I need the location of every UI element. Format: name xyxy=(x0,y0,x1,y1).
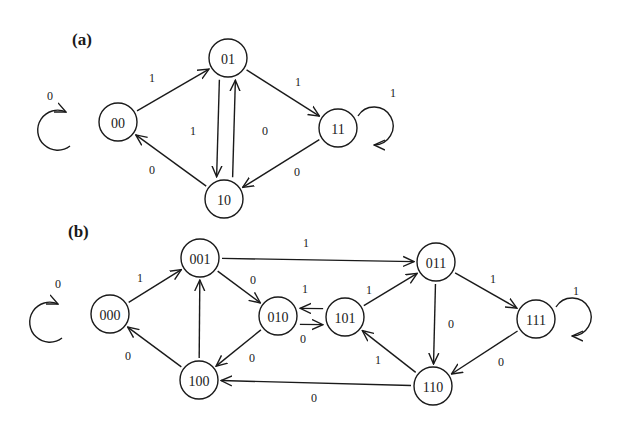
edge-label: 1 xyxy=(137,271,143,285)
self-loop-edge xyxy=(38,110,70,150)
edge-label: 1 xyxy=(390,86,396,100)
node-label: 101 xyxy=(335,311,356,326)
state-node-100: 100 xyxy=(180,361,218,399)
edge-100-001 xyxy=(199,280,200,358)
state-node-01: 01 xyxy=(209,39,247,77)
edge-110-100 xyxy=(221,381,411,386)
edge-10-00 xyxy=(136,135,206,186)
self-loop-edge xyxy=(556,298,591,336)
edge-label: 0 xyxy=(125,349,131,363)
state-node-010: 010 xyxy=(259,297,297,335)
edge-label: 1 xyxy=(573,284,579,298)
node-label: 00 xyxy=(111,116,125,131)
edge-11-10 xyxy=(243,140,320,188)
state-node-001: 001 xyxy=(181,239,219,277)
panel-a-graph: (a)1101000100011110 xyxy=(38,30,396,218)
self-loop-edge xyxy=(30,302,62,342)
edge-label: 0 xyxy=(249,351,255,365)
edge-00-01 xyxy=(137,69,209,111)
edge-110-101 xyxy=(362,331,415,373)
edge-01-11 xyxy=(247,70,320,116)
panel-label: (a) xyxy=(72,30,92,49)
node-label: 11 xyxy=(331,122,344,137)
state-node-111: 111 xyxy=(517,300,555,338)
state-node-011: 011 xyxy=(417,243,455,281)
edge-label: 0 xyxy=(311,391,317,405)
state-node-11: 11 xyxy=(319,109,357,147)
edge-10-01 xyxy=(233,80,236,177)
state-node-10: 10 xyxy=(205,180,243,218)
edge-label: 0 xyxy=(262,124,268,138)
edge-label: 1 xyxy=(490,272,496,286)
edge-label: 1 xyxy=(149,71,155,85)
state-node-000: 000 xyxy=(91,295,129,333)
edge-100-000 xyxy=(128,327,182,367)
panel-b-graph: (b)1101010101000010000010101010111111101… xyxy=(30,222,591,405)
edge-label: 0 xyxy=(149,163,155,177)
edge-label: 1 xyxy=(303,236,309,250)
state-node-110: 110 xyxy=(414,367,452,405)
edge-label: 0 xyxy=(448,317,454,331)
edge-label: 1 xyxy=(302,282,308,296)
edge-label: 0 xyxy=(55,277,61,291)
node-label: 10 xyxy=(217,193,231,208)
node-label: 110 xyxy=(423,380,443,395)
node-label: 010 xyxy=(268,310,289,325)
node-label: 100 xyxy=(189,374,210,389)
edge-111-110 xyxy=(451,331,517,374)
node-label: 000 xyxy=(100,308,121,323)
edge-label: 1 xyxy=(366,283,372,297)
edge-label: 1 xyxy=(295,75,301,89)
node-label: 01 xyxy=(221,52,235,67)
node-label: 001 xyxy=(190,252,211,267)
edge-011-111 xyxy=(455,273,517,308)
node-label: 111 xyxy=(526,313,546,328)
state-node-101: 101 xyxy=(326,298,364,336)
node-label: 011 xyxy=(426,256,446,271)
edge-label: 0 xyxy=(300,332,306,346)
edge-label: 1 xyxy=(375,353,381,367)
edge-label: 0 xyxy=(498,355,504,369)
edge-label: 0 xyxy=(294,165,300,179)
state-node-00: 00 xyxy=(99,103,137,141)
edge-011-110 xyxy=(434,284,436,364)
edge-label: 0 xyxy=(250,273,256,287)
edge-01-10 xyxy=(217,80,220,177)
edge-001-011 xyxy=(222,258,414,261)
panel-label: (b) xyxy=(68,222,89,241)
edge-label: 0 xyxy=(47,89,53,103)
state-diagram: (a)1101000100011110 (b)11010101010000100… xyxy=(0,0,630,423)
edge-label: 1 xyxy=(190,124,196,138)
self-loop-edge xyxy=(358,107,393,145)
